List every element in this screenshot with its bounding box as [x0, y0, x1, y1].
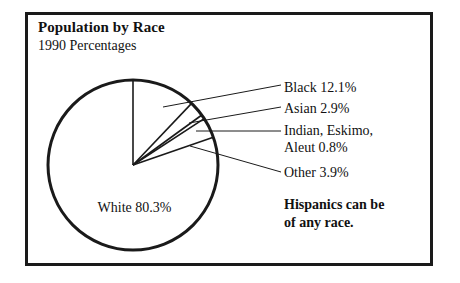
pie-slice-label-white: White 80.3% [62, 200, 207, 216]
legend-item-indian-line1: Indian, Eskimo, [284, 122, 373, 139]
footnote-hispanics: Hispanics can be of any race. [284, 196, 384, 232]
legend-item-asian: Asian 2.9% [284, 100, 349, 117]
legend-item-indian-line2: Aleut 0.8% [284, 139, 373, 156]
legend-item-black: Black 12.1% [284, 79, 356, 96]
legend-item-other: Other 3.9% [284, 164, 349, 181]
legend-item-indian-eskimo-aleut: Indian, Eskimo, Aleut 0.8% [284, 122, 373, 156]
footnote-line1: Hispanics can be [284, 196, 384, 214]
footnote-line2: of any race. [284, 214, 384, 232]
pie-chart-graphic [0, 0, 460, 283]
chart-figure: Population by Race 1990 Percentages Blac… [0, 0, 460, 283]
